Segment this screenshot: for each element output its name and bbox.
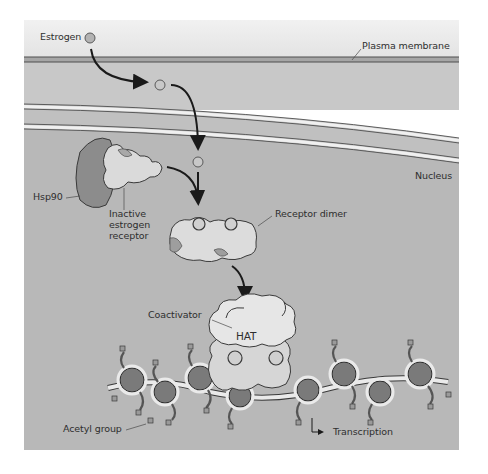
- label-line: receptor: [109, 230, 169, 241]
- plasma-membrane: [24, 57, 459, 62]
- label-transcription: Transcription: [333, 426, 393, 437]
- estrogen-molecule-icon: [85, 33, 95, 43]
- label-line: estrogen: [109, 219, 169, 230]
- label-line: Inactive: [109, 208, 169, 219]
- bound-estrogen-icon: [269, 351, 283, 365]
- diagram-canvas: [0, 0, 488, 474]
- label-plasma-membrane: Plasma membrane: [362, 40, 450, 51]
- label-receptor-dimer: Receptor dimer: [275, 208, 347, 219]
- label-estrogen: Estrogen: [40, 31, 81, 42]
- label-hsp90: Hsp90: [33, 191, 63, 202]
- label-acetyl-group: Acetyl group: [63, 423, 122, 434]
- bound-estrogen-icon: [228, 351, 242, 365]
- estrogen-molecule-icon: [193, 157, 203, 167]
- estrogen-signaling-figure: Estrogen Plasma membrane Nucleus Hsp90 I…: [0, 0, 488, 474]
- estrogen-molecule-icon: [155, 80, 165, 90]
- label-hat: HAT: [236, 330, 256, 342]
- label-inactive-estrogen-receptor: Inactive estrogen receptor: [109, 208, 169, 241]
- bound-estrogen-icon: [193, 218, 205, 230]
- bound-estrogen-icon: [225, 218, 237, 230]
- label-nucleus: Nucleus: [415, 170, 452, 181]
- coactivator-complex: [208, 294, 295, 391]
- cytoplasm: [24, 58, 459, 110]
- receptor-dimer: [170, 217, 257, 261]
- label-coactivator: Coactivator: [148, 309, 202, 320]
